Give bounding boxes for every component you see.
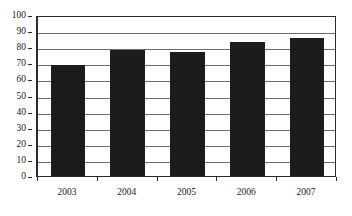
x-tick-mark [37,177,38,181]
x-tick-mark [276,177,277,181]
x-tick-mark [216,177,217,181]
y-tick-label: 80 [17,43,27,53]
bar [230,42,265,176]
x-tick-label: 2005 [177,188,196,198]
x-tick-label: 2004 [117,188,136,198]
y-tick-label: 0 [21,172,26,182]
y-tick-label: 20 [17,140,27,150]
y-tick-label: 60 [17,76,27,86]
y-tick-mark [28,161,32,162]
y-tick-label: 70 [17,60,27,70]
y-tick-label: 50 [17,92,27,102]
x-tick-mark [157,177,158,181]
y-tick-label: 100 [12,11,26,21]
y-tick-mark [28,16,32,17]
bar [170,52,205,176]
y-tick-mark [28,32,32,33]
bar [51,65,86,176]
y-tick-label: 40 [17,108,27,118]
bar-chart-figure: 0102030405060708090100 20032004200520062… [0,0,352,216]
y-axis: 0102030405060708090100 [0,16,32,177]
x-tick-mark [97,177,98,181]
y-tick-mark [28,129,32,130]
y-tick-mark [28,80,32,81]
x-tick-label: 2003 [57,188,76,198]
plot-area [37,16,336,177]
y-tick-mark [28,177,32,178]
y-tick-label: 90 [17,27,27,37]
y-tick-mark [28,97,32,98]
bar-series [38,17,335,176]
x-axis: 20032004200520062007 [37,182,336,202]
x-tick-label: 2007 [297,188,316,198]
y-tick-mark [28,145,32,146]
bar [110,50,145,176]
y-tick-label: 10 [17,156,27,166]
y-tick-mark [28,64,32,65]
x-tick-label: 2006 [237,188,256,198]
bar [290,38,325,176]
y-tick-mark [28,48,32,49]
x-tick-mark [336,177,337,181]
y-tick-mark [28,113,32,114]
y-tick-label: 30 [17,124,27,134]
